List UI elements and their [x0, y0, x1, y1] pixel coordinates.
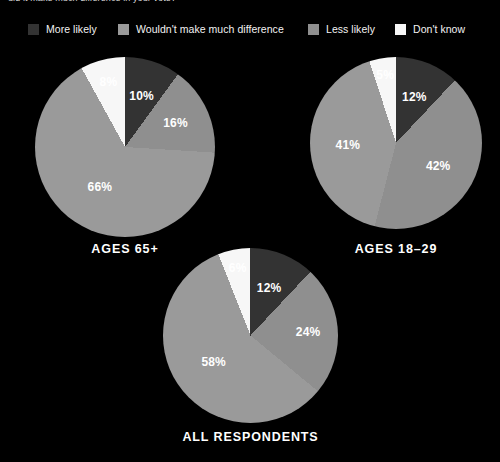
legend-item-label: More likely — [46, 23, 97, 35]
pie-slice-label: 66% — [88, 180, 113, 194]
pie-slice-label: 10% — [129, 89, 154, 103]
legend-swatch-icon — [308, 24, 319, 35]
pie-slice-label: 12% — [257, 281, 282, 295]
legend-item: Wouldn't make much difference — [118, 22, 284, 36]
legend-swatch-icon — [28, 24, 39, 35]
pie-slice-label: 58% — [201, 355, 226, 369]
chart-legend: More likelyWouldn't make much difference… — [0, 22, 500, 36]
pie-slice-label: 5% — [376, 68, 394, 82]
legend-swatch-icon — [118, 24, 129, 35]
legend-item-label: Wouldn't make much difference — [136, 23, 284, 35]
pie-chart: 12%24%58%6%ALL RESPONDENTS — [163, 248, 338, 423]
pie-graphic: 12%42%41%5% — [310, 57, 482, 229]
pie-slice-label: 6% — [229, 261, 247, 275]
legend-swatch-icon — [395, 24, 406, 35]
chart-headline: uld it make much difference in your vote… — [8, 0, 176, 3]
pie-chart-caption: AGES 65+ — [91, 242, 158, 256]
pie-graphic: 12%24%58%6% — [163, 248, 338, 423]
pie-graphic: 10%16%66%8% — [35, 57, 215, 237]
legend-item: More likely — [28, 22, 97, 36]
pie-slice-label: 42% — [426, 159, 451, 173]
pie-chart: 10%16%66%8%AGES 65+ — [35, 57, 215, 237]
pie-slice-label: 16% — [163, 116, 188, 130]
legend-item: Don't know — [395, 22, 465, 36]
pie-chart: 12%42%41%5%AGES 18–29 — [310, 57, 482, 229]
pie-slice-label: 8% — [100, 75, 118, 89]
pie-chart-caption: AGES 18–29 — [355, 242, 438, 256]
legend-item-label: Don't know — [413, 23, 465, 35]
pie-chart-caption: ALL RESPONDENTS — [182, 430, 318, 444]
pie-slice-label: 24% — [296, 325, 321, 339]
pie-slice-label: 12% — [402, 90, 427, 104]
pie-slice-label: 41% — [336, 138, 361, 152]
legend-item-label: Less likely — [326, 23, 375, 35]
legend-item: Less likely — [308, 22, 375, 36]
